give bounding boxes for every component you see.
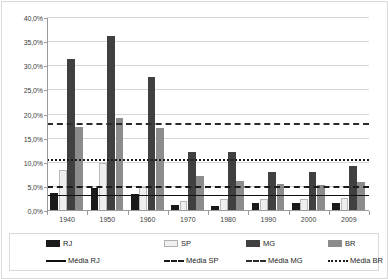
legend-swatch-icon xyxy=(246,257,266,264)
legend-swatch-icon xyxy=(46,257,66,264)
legend-label: BR xyxy=(345,239,355,248)
chart-container: 0,0%5,0%10,0%15,0%20,0%25,0%30,0%35,0%40… xyxy=(0,0,388,279)
legend-row-lines: Média RJMédia SPMédia MGMédia BR xyxy=(10,253,378,268)
y-axis-tick-label: 30,0% xyxy=(24,63,43,70)
x-axis-tick-mark xyxy=(329,211,330,215)
legend-swatch-icon xyxy=(328,240,342,247)
legend-item-média-mg[interactable]: Média MG xyxy=(246,253,303,268)
legend-item-mg[interactable]: MG xyxy=(246,236,275,251)
legend-label: Média RJ xyxy=(68,256,100,265)
legend-item-média-br[interactable]: Média BR xyxy=(328,253,383,268)
legend-item-rj[interactable]: RJ xyxy=(46,236,72,251)
x-axis-tick-mark xyxy=(369,211,370,215)
legend-swatch-icon xyxy=(246,240,260,247)
legend-item-média-sp[interactable]: Média SP xyxy=(164,253,219,268)
legend-label: SP xyxy=(181,239,191,248)
y-axis-tick-label: 20,0% xyxy=(24,111,43,118)
x-axis-tick-label: 1970 xyxy=(180,216,196,223)
y-axis-tick-label: 40,0% xyxy=(24,15,43,22)
x-axis-tick-mark xyxy=(168,211,169,215)
legend-item-sp[interactable]: SP xyxy=(164,236,191,251)
y-axis-tick-label: 35,0% xyxy=(24,39,43,46)
legend-label: MG xyxy=(263,239,275,248)
x-axis-tick-label: 1980 xyxy=(220,216,236,223)
x-axis-tick-label: 1990 xyxy=(261,216,277,223)
plot-area xyxy=(47,18,369,211)
x-axis-tick-mark xyxy=(87,211,88,215)
legend-row-bars: RJSPMGBR xyxy=(10,236,378,251)
x-axis-tick-mark xyxy=(289,211,290,215)
legend-swatch-icon xyxy=(164,240,178,247)
legend-swatch-icon xyxy=(164,257,184,264)
x-axis-tick-label: 1950 xyxy=(100,216,116,223)
legend-label: Média BR xyxy=(350,256,383,265)
y-axis-tick-label: 15,0% xyxy=(24,135,43,142)
x-axis-tick-label: 1940 xyxy=(59,216,75,223)
x-axis-tick-mark xyxy=(128,211,129,215)
x-axis-tick-label: 2009 xyxy=(341,216,357,223)
y-axis-tick-label: 25,0% xyxy=(24,87,43,94)
y-axis-tick-label: 0,0% xyxy=(27,208,43,215)
legend-label: RJ xyxy=(63,239,72,248)
legend-item-br[interactable]: BR xyxy=(328,236,355,251)
legend-label: Média MG xyxy=(268,256,303,265)
chart-legend: RJSPMGBR Média RJMédia SPMédia MGMédia B… xyxy=(9,233,379,271)
y-axis-tick-label: 5,0% xyxy=(27,183,43,190)
x-axis-tick-label: 2000 xyxy=(301,216,317,223)
x-axis-tick-label: 1960 xyxy=(140,216,156,223)
x-axis-tick-mark xyxy=(47,211,48,215)
x-axis-tick-mark xyxy=(208,211,209,215)
legend-label: Média SP xyxy=(186,256,219,265)
y-axis-tick-label: 10,0% xyxy=(24,159,43,166)
legend-swatch-icon xyxy=(328,257,348,264)
x-axis-tick-mark xyxy=(248,211,249,215)
legend-swatch-icon xyxy=(46,240,60,247)
legend-item-média-rj[interactable]: Média RJ xyxy=(46,253,100,268)
plot-frame xyxy=(47,18,369,211)
